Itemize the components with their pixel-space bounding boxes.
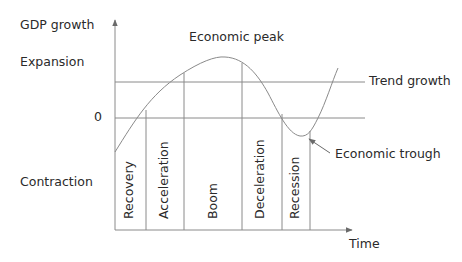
peak-annotation: Economic peak — [189, 31, 284, 44]
trough-annotation: Economic trough — [335, 148, 441, 161]
trough-pointer-arrow — [309, 139, 330, 153]
phase-label-acceleration: Acceleration — [158, 141, 171, 219]
trend-growth-label: Trend growth — [369, 75, 451, 88]
y-axis-label: GDP growth — [20, 19, 94, 32]
phase-label-boom: Boom — [207, 183, 220, 219]
business-cycle-diagram: GDP growth Expansion 0 Contraction Econo… — [0, 0, 462, 262]
cycle-curve — [115, 57, 338, 152]
phase-label-deceleration: Deceleration — [254, 139, 267, 219]
phase-label-recovery: Recovery — [123, 161, 136, 219]
zero-label: 0 — [94, 111, 102, 124]
x-axis-label: Time — [349, 238, 380, 251]
expansion-label: Expansion — [20, 56, 84, 69]
contraction-label: Contraction — [20, 176, 93, 189]
phase-label-recession: Recession — [289, 157, 302, 219]
